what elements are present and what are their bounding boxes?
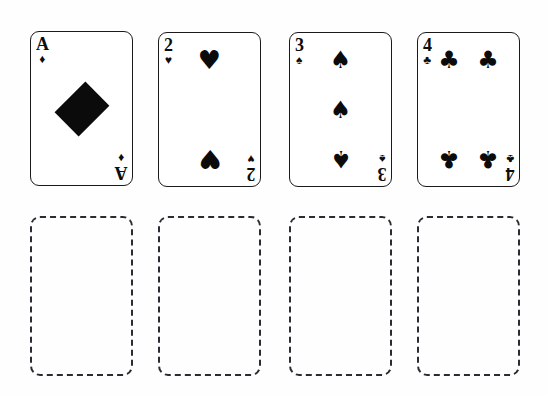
card-3-spades[interactable]: 3♠3♠♠♠♠: [289, 32, 392, 187]
card-rank-label: 4: [506, 165, 515, 183]
card-rank-label: A: [115, 164, 128, 182]
card-4-clubs[interactable]: 4♣4♣♣♣♣♣: [417, 32, 520, 187]
card-rank-label: 4: [423, 36, 432, 54]
card-game-scene: A♦A♦2♥2♥♥♥3♠3♠♠♠♠4♣4♣♣♣♣♣: [0, 0, 548, 395]
slot-4[interactable]: [417, 216, 520, 376]
spade-pip: ♠: [330, 147, 352, 171]
card-rank-label: 3: [295, 36, 304, 54]
heart-pip: ♥: [198, 47, 221, 73]
spade-pip: ♠: [330, 98, 352, 122]
club-pip: ♣: [438, 147, 460, 171]
card-pip-field: ♠♠♠: [300, 53, 381, 166]
slot-3[interactable]: [289, 216, 392, 376]
club-pip: ♣: [438, 48, 460, 72]
card-ace-diamonds[interactable]: A♦A♦: [30, 31, 133, 186]
heart-pip: ♥: [198, 146, 221, 172]
card-rank-label: 2: [164, 36, 173, 54]
slot-1[interactable]: [30, 216, 133, 376]
card-rank-label: 3: [378, 165, 387, 183]
card-rank-label: A: [36, 35, 49, 53]
card-pip-field: ♥♥: [169, 53, 250, 166]
card-pip-field: [41, 52, 122, 165]
spade-pip: ♠: [330, 48, 352, 72]
card-pip-field: ♣♣♣♣: [428, 53, 509, 166]
club-pip: ♣: [477, 48, 499, 72]
card-rank-label: 2: [247, 165, 256, 183]
slot-2[interactable]: [158, 216, 261, 376]
club-pip: ♣: [477, 147, 499, 171]
card-2-hearts[interactable]: 2♥2♥♥♥: [158, 32, 261, 187]
diamond-pip-large: [54, 81, 109, 136]
